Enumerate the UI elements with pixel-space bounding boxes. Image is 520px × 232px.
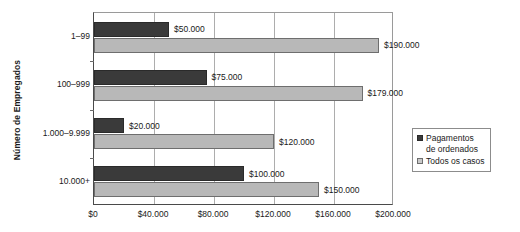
plot-area: $50.000$190.000$75.000$179.000$20.000$12… (93, 12, 393, 205)
category-label: 100–999 (28, 79, 90, 89)
category-axis-labels: 1–99100–9991.000–9.99910.000+ (28, 12, 90, 205)
bar (94, 182, 319, 197)
x-tick-label: $200.000 (375, 209, 410, 219)
x-tick-label: $120.000 (255, 209, 290, 219)
legend-swatch-icon (417, 135, 423, 141)
category-label: 1.000–9.999 (28, 128, 90, 138)
bar (94, 38, 379, 53)
x-tick-label: $0 (88, 209, 97, 219)
y-axis-title: Número de Empregados (12, 25, 22, 195)
legend-swatch-icon (417, 158, 423, 164)
bar (94, 118, 124, 133)
legend-item: Todos os casos (417, 156, 485, 167)
legend: Pagamentos de ordenadosTodos os casos (412, 128, 491, 172)
bar-value-label: $100.000 (245, 169, 284, 179)
category-tick (90, 158, 94, 159)
category-tick (90, 61, 94, 62)
bar (94, 22, 169, 37)
bar-chart: Número de Empregados 1–99100–9991.000–9.… (0, 0, 520, 232)
bar-value-label: $20.000 (125, 121, 160, 131)
category-label: 10.000+ (28, 176, 90, 186)
bar-value-label: $190.000 (380, 40, 419, 50)
legend-label: Pagamentos de ordenados (426, 133, 478, 154)
x-tick-label: $160.000 (315, 209, 350, 219)
bar-value-label: $75.000 (208, 72, 243, 82)
bar-value-label: $120.000 (275, 137, 314, 147)
category-tick (90, 110, 94, 111)
x-axis-labels: $0$40.000$80.000$120.000$160.000$200.000 (93, 209, 393, 225)
bar (94, 166, 244, 181)
bar-value-label: $50.000 (170, 24, 205, 34)
bar-value-label: $150.000 (320, 185, 359, 195)
x-tick-label: $80.000 (198, 209, 229, 219)
bar (94, 86, 363, 101)
bar (94, 134, 274, 149)
bar (94, 70, 207, 85)
x-tick-label: $40.000 (138, 209, 169, 219)
legend-label: Todos os casos (426, 156, 485, 167)
category-label: 1–99 (28, 31, 90, 41)
bar-value-label: $179.000 (364, 88, 403, 98)
legend-item: Pagamentos de ordenados (417, 133, 485, 154)
